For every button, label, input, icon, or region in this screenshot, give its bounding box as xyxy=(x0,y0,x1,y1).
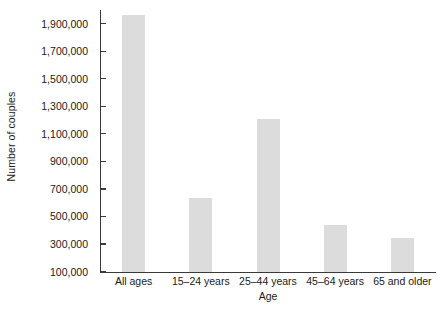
x-axis-tick-label: All ages xyxy=(100,276,167,287)
x-axis-tick-label: 45–64 years xyxy=(302,276,369,287)
y-axis-tick-label: 300,000 xyxy=(2,239,88,250)
y-axis-tick-label: 1,300,000 xyxy=(2,101,88,112)
bar xyxy=(122,15,145,272)
x-axis-tick-label: 15–24 years xyxy=(167,276,234,287)
bar xyxy=(324,225,347,272)
x-axis-title: Age xyxy=(100,291,436,302)
bar-chart: Number of couples 100,000300,000500,0007… xyxy=(0,0,443,311)
bar xyxy=(391,238,414,272)
y-axis-tick-label: 700,000 xyxy=(2,184,88,195)
y-axis-tick-label: 1,100,000 xyxy=(2,129,88,140)
y-axis-tick-label: 100,000 xyxy=(2,267,88,278)
y-axis-tick-label: 1,500,000 xyxy=(2,74,88,85)
bar xyxy=(257,119,280,272)
plot-area xyxy=(100,10,436,272)
y-axis-tick-label: 900,000 xyxy=(2,156,88,167)
y-axis-tick-label: 500,000 xyxy=(2,211,88,222)
bar xyxy=(189,198,212,272)
x-axis-tick-label: 65 and older xyxy=(369,276,436,287)
x-axis-tick-label: 25–44 years xyxy=(234,276,301,287)
y-axis-tick-label: 1,700,000 xyxy=(2,46,88,57)
y-axis-tick-label: 1,900,000 xyxy=(2,19,88,30)
